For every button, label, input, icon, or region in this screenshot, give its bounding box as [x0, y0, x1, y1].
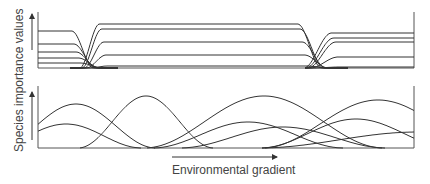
species-curve: [38, 104, 155, 148]
figure: Species importance values Environmental …: [0, 0, 430, 184]
diagram-canvas: [0, 0, 430, 184]
species-curve: [38, 44, 118, 68]
x-axis-label: Environmental gradient: [172, 163, 295, 177]
species-curve: [38, 31, 118, 68]
bottom-panel-continuum-model: [38, 86, 414, 148]
species-curve: [70, 24, 348, 68]
species-curve: [265, 100, 414, 148]
species-curve: [147, 96, 382, 148]
species-curve: [80, 96, 213, 148]
top-panel-discrete-model: [38, 12, 414, 68]
species-curve: [38, 63, 118, 68]
species-curve: [154, 122, 343, 148]
y-axis-label: Species importance values: [12, 9, 26, 152]
species-curve: [262, 132, 414, 148]
species-curve: [70, 29, 348, 68]
